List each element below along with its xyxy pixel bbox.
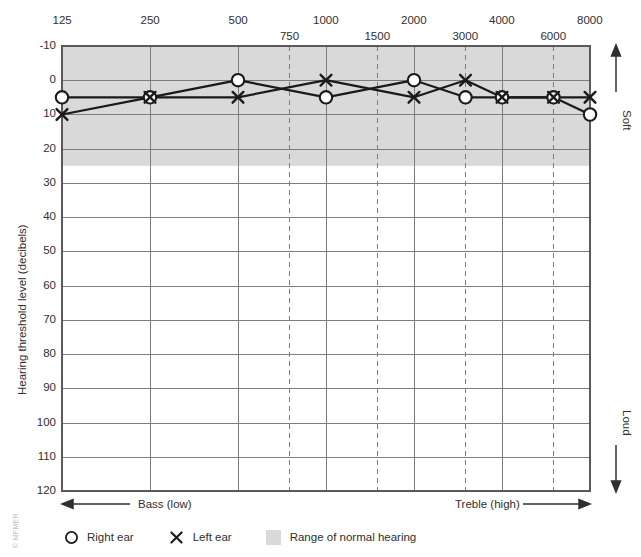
chart-legend: Right ear Left ear Range of normal heari… xyxy=(62,529,416,545)
frequency-tick-500: 500 xyxy=(229,15,248,27)
db-tick-20: 20 xyxy=(30,143,56,155)
bass-label: Bass (low) xyxy=(138,498,192,510)
frequency-tick-6000: 6000 xyxy=(540,31,566,43)
x-mark-icon xyxy=(168,529,186,545)
db-tick-0: 0 xyxy=(30,74,56,86)
legend-item-right-ear: Right ear xyxy=(62,529,134,545)
soft-loud-arrows xyxy=(612,45,621,492)
db-tick--10: -10 xyxy=(30,40,56,52)
frequency-tick-2000: 2000 xyxy=(401,15,427,27)
circle-icon xyxy=(62,529,80,545)
legend-label-right-ear: Right ear xyxy=(87,531,134,543)
right-ear-marker xyxy=(459,91,471,103)
y-axis-title: Hearing threshold level (decibels) xyxy=(16,224,28,395)
legend-item-left-ear: Left ear xyxy=(168,529,232,545)
loud-label: Loud xyxy=(621,410,633,436)
shade-swatch-icon xyxy=(266,530,281,545)
frequency-tick-8000: 8000 xyxy=(577,15,603,27)
db-tick-90: 90 xyxy=(30,382,56,394)
db-tick-30: 30 xyxy=(30,177,56,189)
right-ear-marker xyxy=(584,108,596,120)
legend-label-normal-range: Range of normal hearing xyxy=(290,531,417,543)
db-tick-40: 40 xyxy=(30,211,56,223)
db-tick-80: 80 xyxy=(30,348,56,360)
right-ear-marker xyxy=(56,91,68,103)
audiogram-plot-svg xyxy=(0,0,641,557)
frequency-tick-1000: 1000 xyxy=(313,15,339,27)
frequency-tick-750: 750 xyxy=(280,31,299,43)
frequency-tick-3000: 3000 xyxy=(452,31,478,43)
copyright-notice: © MFMER xyxy=(12,513,19,548)
right-ear-marker xyxy=(408,74,420,86)
frequency-tick-4000: 4000 xyxy=(489,15,515,27)
right-ear-marker xyxy=(232,74,244,86)
db-tick-100: 100 xyxy=(30,417,56,429)
frequency-tick-250: 250 xyxy=(141,15,160,27)
treble-label: Treble (high) xyxy=(455,498,520,510)
audiogram-chart: 1252505001000200040008000 75015003000600… xyxy=(0,0,641,557)
legend-item-normal-range: Range of normal hearing xyxy=(266,530,417,545)
db-tick-70: 70 xyxy=(30,314,56,326)
soft-label: Soft xyxy=(621,110,633,130)
db-tick-110: 110 xyxy=(30,451,56,463)
db-tick-120: 120 xyxy=(30,485,56,497)
db-tick-60: 60 xyxy=(30,280,56,292)
right-ear-marker xyxy=(320,91,332,103)
db-tick-50: 50 xyxy=(30,245,56,257)
db-tick-10: 10 xyxy=(30,108,56,120)
frequency-tick-1500: 1500 xyxy=(364,31,390,43)
frequency-tick-125: 125 xyxy=(53,15,72,27)
legend-label-left-ear: Left ear xyxy=(193,531,232,543)
